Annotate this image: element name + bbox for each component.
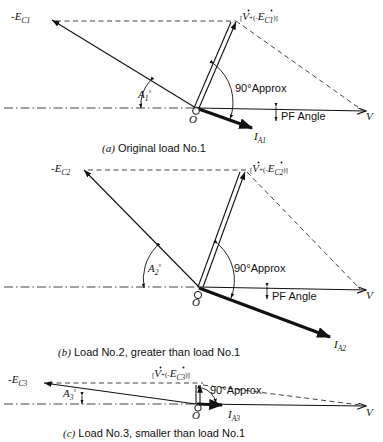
panel-a-minus-ec-label: -EC1 (11, 10, 30, 25)
panel-b-edot (281, 162, 283, 164)
panel-a-current-label: IA1 (253, 130, 266, 145)
panel-c-current-vector (197, 404, 222, 405)
panel-c-angle-label: A3° (62, 387, 76, 402)
panel-b-right-angle-arc (218, 244, 234, 298)
panel-a-pf-angle-label: PF Angle (281, 110, 326, 122)
panel-c-edot (183, 367, 185, 369)
panel-b-current-label: IA2 (333, 338, 346, 353)
panel-a-right-angle-arc (214, 64, 233, 119)
panel-a-current-vector (196, 108, 252, 128)
panel-a-vdot (248, 10, 250, 12)
phasor-figure: -EC1 [V+(-EC1)] A1° 90°Approx PF Angle O… (0, 0, 383, 442)
panel-c-resultant-label: [V+(-EC3)] (152, 367, 190, 382)
phasor-diagram-canvas: -EC1 [V+(-EC1)] A1° 90°Approx PF Angle O… (0, 0, 383, 442)
panel-a-caption: (a) Original load No.1 (102, 142, 206, 155)
panel-b-voltage-label: V (366, 289, 374, 301)
panel-a-voltage-label: V (366, 110, 374, 122)
panel-b-resultant-label: [V+(-EC2)] (250, 162, 288, 177)
panel-c-caption: (c) Load No.3, smaller than load No.1 (63, 427, 245, 440)
panel-c-voltage-label: V (366, 406, 374, 418)
panel-b-pf-angle-label: PF Angle (272, 290, 317, 302)
panel-b-origin-label: O (192, 296, 200, 308)
panel-c-minus-ec-label: -EC3 (8, 373, 27, 388)
panel-c-vdot (160, 367, 162, 369)
panel-a-edot (271, 10, 273, 12)
panel-a-angle-label: A1° (137, 88, 151, 103)
panel-c-right-angle-label: 90°Approx (210, 384, 262, 396)
panel-c-group: -EC3 [V+(-EC3)] A3° 90°Approx O V IA3 (c… (4, 367, 374, 440)
panel-b-minus-ec-label: -EC2 (51, 162, 70, 177)
panel-a-right-angle-label: 90°Approx (235, 82, 287, 94)
panel-a-origin-label: O (189, 113, 197, 125)
panel-b-vdot (258, 162, 260, 164)
panel-b-minus-ec-vector (84, 170, 199, 287)
panel-a-closing-construction-line (236, 21, 362, 110)
panel-b-angle-label: A2° (147, 262, 161, 277)
panel-b-group: -EC2 [V+(-EC2)] A2° 90°Approx PF Angle O… (4, 162, 374, 359)
panel-a-group: -EC1 [V+(-EC1)] A1° 90°Approx PF Angle O… (4, 10, 374, 155)
panel-c-current-label: IA3 (227, 408, 240, 423)
panel-a-minus-ec-vector (52, 20, 196, 108)
panel-a-resultant-edge-right (199, 22, 236, 108)
panel-a-resultant-label: [V+(-EC1)] (240, 10, 278, 25)
panel-c-origin-label: O (192, 409, 200, 421)
panel-b-right-angle-label: 90°Approx (234, 262, 286, 274)
panel-a-resultant-edge-left (194, 22, 231, 108)
panel-b-caption: (b) Load No.2, greater than load No.1 (58, 346, 240, 359)
